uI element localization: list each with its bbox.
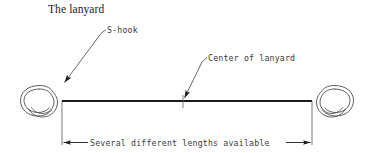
center-of-lanyard-label: Center of lanyard — [208, 53, 295, 63]
s-hook-label: S-hook — [107, 25, 138, 35]
dimension-line: Several different lengths available — [62, 119, 312, 148]
center-of-lanyard-callout: Center of lanyard — [185, 53, 296, 98]
lanyard-technical-diagram: S-hook Center of lanyard Several differe… — [0, 0, 374, 153]
s-hook-callout: S-hook — [65, 25, 138, 83]
lanyard-diagram-page: The lanyard — [0, 0, 374, 153]
dimension-label: Several different lengths available — [90, 138, 270, 148]
left-s-hook — [21, 86, 63, 120]
right-s-hook — [312, 86, 354, 120]
